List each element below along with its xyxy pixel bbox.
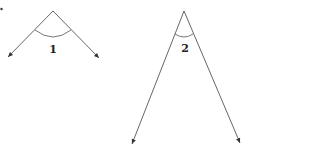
angle-2-right-ray [184,11,240,143]
angle-1-left-ray [8,11,53,57]
angle-1-label: 1 [49,43,57,56]
angle-2: 2 [132,11,240,144]
angle-1: 1 [8,11,99,58]
angle-1-right-ray [53,11,99,58]
angle-1-arc [35,30,71,37]
angle-diagram: 1 2 [0,0,336,153]
angle-2-arc [175,34,193,37]
angle-2-left-ray [132,11,184,144]
corner-mark [0,8,2,10]
angle-2-label: 2 [181,42,189,55]
